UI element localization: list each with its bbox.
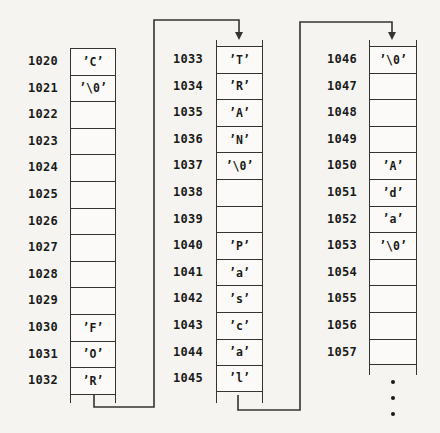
address-label: 1022 <box>14 101 58 128</box>
address-label: 1038 <box>159 179 203 206</box>
address-label: 1045 <box>159 365 203 392</box>
address-label: 1030 <box>14 314 58 341</box>
memory-cell: ’\0’ <box>370 232 416 259</box>
memory-cell <box>370 312 416 339</box>
address-label: 1043 <box>159 312 203 339</box>
address-label: 1053 <box>313 232 357 259</box>
memory-cell <box>71 262 115 289</box>
address-label: 1052 <box>313 206 357 233</box>
memory-cell: ’d’ <box>370 179 416 206</box>
address-label: 1021 <box>14 75 58 102</box>
address-label: 1055 <box>313 285 357 312</box>
address-label: 1020 <box>14 48 58 75</box>
memory-cell: ’A’ <box>217 99 262 126</box>
memory-cell <box>370 99 416 126</box>
address-label: 1050 <box>313 152 357 179</box>
address-label: 1037 <box>159 152 203 179</box>
address-label: 1036 <box>159 126 203 153</box>
memory-cell: ’R’ <box>71 368 115 395</box>
memory-cell: ’N’ <box>217 126 262 153</box>
address-column-2: 1033103410351036103710381039104010411042… <box>159 46 203 392</box>
cell-stack-1: ’C’’\0’’F’’O’’R’ <box>70 48 116 403</box>
memory-cell: ’a’ <box>217 339 262 366</box>
memory-cell <box>71 129 115 156</box>
address-label: 1029 <box>14 287 58 314</box>
cell-stack-2: ’T’’R’’A’’N’’\0’’P’’a’’s’’c’’a’’l’ <box>216 40 263 403</box>
memory-cell: ’T’ <box>217 46 262 73</box>
address-label: 1039 <box>159 206 203 233</box>
memory-cell <box>71 102 115 129</box>
memory-cell: ’\0’ <box>217 152 262 179</box>
memory-cell <box>71 209 115 236</box>
address-label: 1046 <box>313 46 357 73</box>
memory-cell <box>370 285 416 312</box>
address-label: 1048 <box>313 99 357 126</box>
memory-cell: ’P’ <box>217 232 262 259</box>
address-label: 1024 <box>14 154 58 181</box>
memory-cell: ’A’ <box>370 152 416 179</box>
address-label: 1042 <box>159 285 203 312</box>
address-label: 1041 <box>159 259 203 286</box>
address-label: 1025 <box>14 181 58 208</box>
address-label: 1047 <box>313 73 357 100</box>
cell-stack-3: ’\0’’A’’d’’a’’\0’ <box>369 40 417 375</box>
memory-cell: ’O’ <box>71 342 115 369</box>
address-label: 1049 <box>313 126 357 153</box>
memory-cell: ’R’ <box>217 73 262 100</box>
memory-diagram: 1020102110221023102410251026102710281029… <box>0 0 440 433</box>
memory-cell: ’s’ <box>217 285 262 312</box>
address-label: 1057 <box>313 339 357 366</box>
memory-cell <box>370 259 416 286</box>
address-label: 1044 <box>159 339 203 366</box>
address-label: 1034 <box>159 73 203 100</box>
ellipsis-dot <box>391 412 395 416</box>
address-label: 1028 <box>14 261 58 288</box>
memory-cell: ’c’ <box>217 312 262 339</box>
memory-cell: ’F’ <box>71 315 115 342</box>
address-label: 1033 <box>159 46 203 73</box>
address-label: 1051 <box>313 179 357 206</box>
memory-cell <box>217 206 262 233</box>
ellipsis-dot <box>391 396 395 400</box>
memory-cell: ’\0’ <box>370 46 416 73</box>
memory-cell <box>71 155 115 182</box>
memory-cell: ’l’ <box>217 365 262 392</box>
memory-cell <box>370 339 416 366</box>
address-label: 1031 <box>14 341 58 368</box>
memory-cell <box>71 288 115 315</box>
memory-cell <box>71 182 115 209</box>
memory-cell <box>370 126 416 153</box>
memory-cell: ’a’ <box>217 259 262 286</box>
address-label: 1032 <box>14 367 58 394</box>
continuation-ellipsis <box>379 380 407 416</box>
address-label: 1023 <box>14 128 58 155</box>
memory-cell: ’C’ <box>71 49 115 76</box>
address-label: 1035 <box>159 99 203 126</box>
address-label: 1054 <box>313 259 357 286</box>
address-label: 1026 <box>14 208 58 235</box>
address-label: 1056 <box>313 312 357 339</box>
memory-cell <box>370 73 416 100</box>
address-column-3: 1046104710481049105010511052105310541055… <box>313 46 357 365</box>
memory-cell <box>217 179 262 206</box>
memory-cell <box>71 235 115 262</box>
address-column-1: 1020102110221023102410251026102710281029… <box>14 48 58 394</box>
ellipsis-dot <box>391 380 395 384</box>
memory-cell: ’a’ <box>370 206 416 233</box>
memory-cell: ’\0’ <box>71 76 115 103</box>
address-label: 1040 <box>159 232 203 259</box>
address-label: 1027 <box>14 234 58 261</box>
